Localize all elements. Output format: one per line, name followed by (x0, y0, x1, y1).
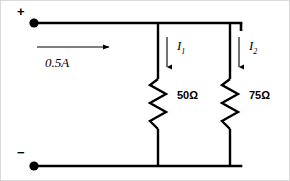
positive-polarity-label: + (17, 5, 25, 18)
source-current-label: 0.5A (45, 56, 69, 69)
resistor-2-symbol (222, 79, 238, 129)
current-subscript-1: 1 (181, 47, 185, 56)
resistor-1-symbol (150, 79, 166, 129)
negative-polarity-label: − (17, 146, 25, 159)
positive-terminal-node (29, 18, 38, 27)
resistor-value-label-1: 50Ω (177, 90, 198, 101)
negative-terminal-node (29, 161, 38, 170)
current-subscript-2: 2 (253, 47, 257, 56)
circuit-schematic (1, 1, 290, 181)
branch-current-label-2: I2 (249, 39, 257, 56)
resistor-value-label-2: 75Ω (249, 90, 270, 101)
branch-current-label-1: I1 (177, 39, 185, 56)
circuit-diagram-canvas: + − 0.5A I1 I2 50Ω 75Ω (0, 0, 290, 181)
